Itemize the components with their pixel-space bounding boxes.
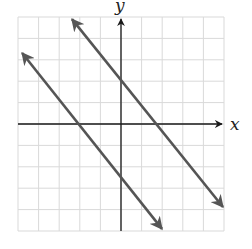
- coordinate-plane: x y: [0, 0, 252, 249]
- x-axis-label: x: [230, 114, 240, 134]
- lower-line: [22, 53, 162, 229]
- y-axis-label: y: [114, 0, 125, 15]
- upper-line: [72, 19, 223, 207]
- axes: [18, 19, 222, 231]
